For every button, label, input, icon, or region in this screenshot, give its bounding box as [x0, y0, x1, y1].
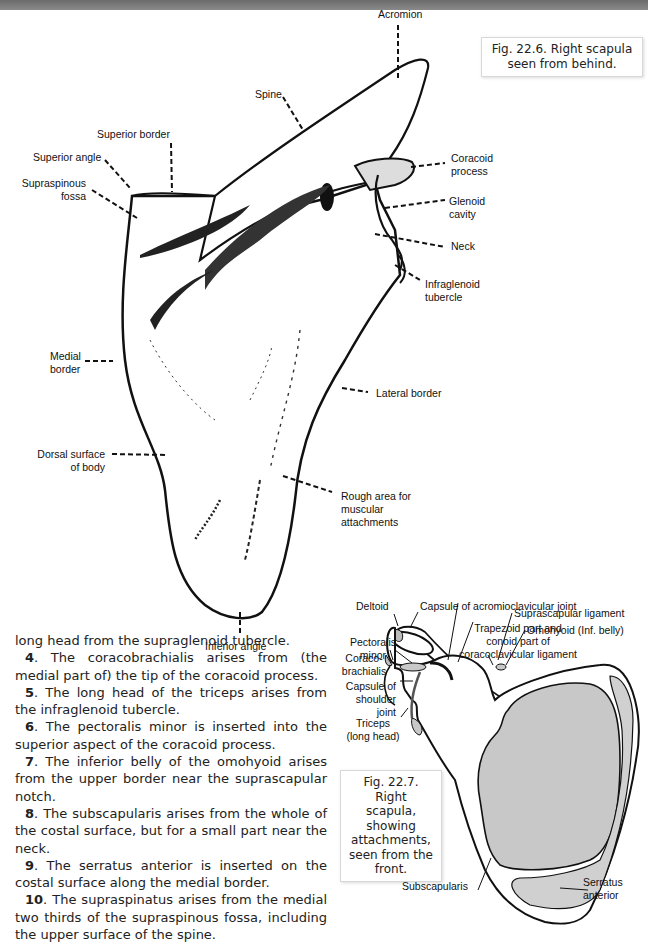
list-item: 9. The serratus anterior is inserted on …	[15, 857, 327, 892]
label-serratus-anterior: Serratus anterior	[583, 876, 623, 902]
list-item: 5. The long head of the triceps arises f…	[15, 684, 327, 719]
list-item: 10. The supraspinatus arises from the me…	[15, 891, 327, 943]
label-deltoid: Deltoid	[356, 600, 389, 613]
label-omohyoid: Omohyoid (Inf. belly)	[527, 624, 624, 637]
label-capsule-shoulder-joint: Capsule of shoulder joint	[342, 680, 396, 719]
label-suprascapular-ligament: Suprascapular ligament	[514, 607, 624, 620]
list-item: 4. The coracobrachialis arises from (the…	[15, 649, 327, 684]
body-text: long head from the supraglenoid tubercle…	[15, 632, 327, 943]
label-triceps-long-head: Triceps (long head)	[343, 717, 403, 743]
figure-2-caption: Fig. 22.7. Right scapula, showing attach…	[340, 770, 442, 882]
label-subscapularis: Subscapularis	[402, 880, 468, 893]
list-item: 8. The subscapularis arises from the who…	[15, 805, 327, 857]
label-coracobrachialis: Coraco- brachialis	[340, 652, 388, 678]
list-item: 6. The pectoralis minor is inserted into…	[15, 718, 327, 753]
list-item: 7. The inferior belly of the omohyoid ar…	[15, 753, 327, 805]
body-intro: long head from the supraglenoid tubercle…	[15, 632, 327, 649]
